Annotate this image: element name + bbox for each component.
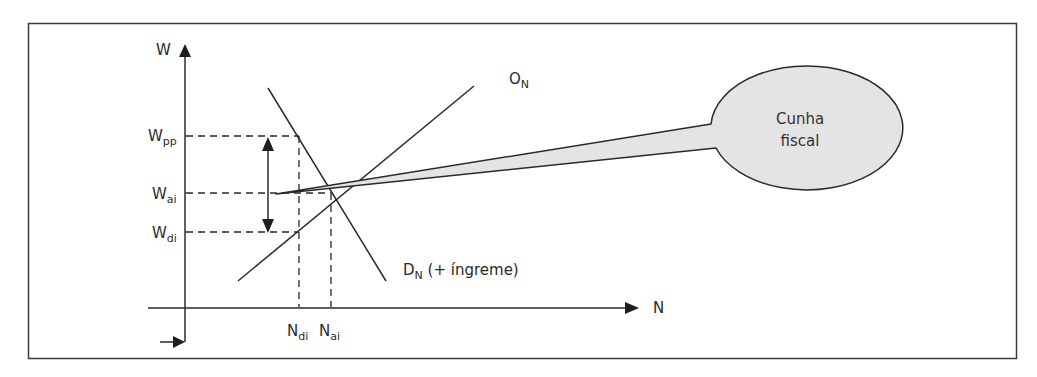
n-axis-label: N [653, 299, 664, 317]
callout-text-line2: fiscal [781, 132, 820, 150]
ndi-label: Ndi [287, 322, 308, 343]
callout-text-line1: Cunha [776, 110, 824, 128]
supply-curve-label: ON [509, 70, 529, 91]
wpp-label: Wpp [148, 127, 177, 148]
wai-label: Wai [152, 185, 177, 206]
wdi-label: Wdi [152, 224, 177, 245]
w-axis-label: W [156, 41, 171, 59]
labor-market-tax-wedge-diagram: Cunha fiscal W N Wpp Wai Wdi Ndi Nai ON … [0, 0, 1037, 377]
origin-arrow-icon [173, 336, 185, 348]
wedge-span-up-arrow-icon [262, 137, 274, 151]
nai-label: Nai [319, 322, 340, 343]
w-axis-arrow-icon [179, 44, 191, 57]
callout-bubble [276, 66, 903, 194]
n-axis-arrow-icon [625, 302, 639, 314]
demand-curve-label: DN (+ íngreme) [403, 261, 519, 282]
wedge-span-down-arrow-icon [262, 219, 274, 233]
